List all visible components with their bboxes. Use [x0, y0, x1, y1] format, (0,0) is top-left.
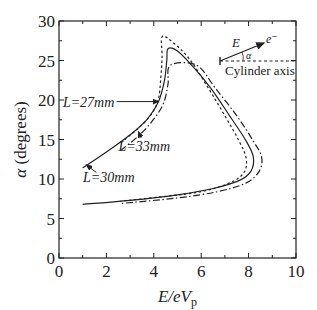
- chart: 0246810051015202530E/eVpα (degrees) L=27…: [0, 0, 317, 310]
- vector-label: E: [231, 35, 240, 50]
- angle-arc: [242, 52, 243, 61]
- y-tick-label: 15: [38, 131, 55, 150]
- cylinder-axis-label: Cylinder axis: [225, 63, 295, 78]
- x-tick-label: 0: [55, 262, 64, 281]
- inset-diagram: Ee⁻αCylinder axis: [220, 32, 296, 78]
- plot-frame: [59, 21, 296, 258]
- y-tick-label: 25: [38, 52, 55, 71]
- annotation-label: L=30mm: [82, 170, 134, 185]
- y-tick-label: 5: [47, 210, 56, 229]
- x-tick-label: 4: [150, 262, 159, 281]
- x-tick-label: 2: [102, 262, 111, 281]
- x-tick-label: 6: [197, 262, 206, 281]
- angle-label: α: [246, 50, 252, 61]
- annotation-label: L=27mm: [62, 95, 114, 110]
- x-tick-label: 10: [288, 262, 305, 281]
- y-tick-label: 30: [38, 12, 55, 31]
- x-axis-label: E/eVp: [157, 287, 197, 309]
- annotations: L=27mmL=33mmL=30mm: [62, 95, 170, 186]
- y-tick-label: 10: [38, 170, 55, 189]
- y-axis-label: α (degrees): [11, 101, 30, 177]
- plot-axes: 0246810051015202530E/eVpα (degrees): [11, 12, 305, 309]
- y-tick-label: 0: [47, 249, 56, 268]
- annotation-label: L=33mm: [118, 139, 170, 154]
- particle-label: e⁻: [266, 32, 278, 46]
- y-tick-label: 20: [38, 91, 55, 110]
- x-tick-label: 8: [244, 262, 253, 281]
